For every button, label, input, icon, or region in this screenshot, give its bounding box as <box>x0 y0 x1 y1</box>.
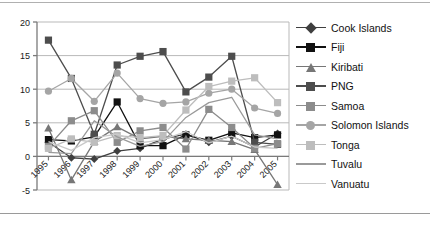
legend-item-label: PNG <box>326 81 354 92</box>
data-point-png <box>45 37 52 44</box>
square-marker <box>306 141 315 150</box>
data-point-png <box>136 53 143 60</box>
data-point-samoa <box>182 145 189 152</box>
data-point-png <box>114 61 121 68</box>
data-point-fiji <box>274 131 281 138</box>
chart-legend: Cook IslandsFijiKiribatiPNGSamoaSolomon … <box>296 18 430 194</box>
legend-key <box>296 79 326 93</box>
data-point-solomon-islands <box>182 98 189 105</box>
x-axis-tick-label: 1999 <box>120 159 141 180</box>
legend-item[interactable]: Samoa <box>296 96 430 116</box>
legend-item[interactable]: Vanuatu <box>296 174 430 194</box>
legend-item-label: Vanuatu <box>326 179 369 190</box>
data-point-solomon-islands <box>205 90 212 97</box>
data-point-png <box>159 48 166 55</box>
diamond-marker <box>305 22 316 33</box>
data-point-fiji <box>159 142 166 149</box>
data-point-tonga <box>91 139 98 146</box>
legend-key <box>296 118 326 132</box>
data-point-samoa <box>136 127 143 134</box>
data-point-solomon-islands <box>274 110 281 117</box>
data-point-solomon-islands <box>45 88 52 95</box>
data-point-png <box>182 88 189 95</box>
data-point-samoa <box>68 117 75 124</box>
legend-item[interactable]: Cook Islands <box>296 18 430 38</box>
data-point-kiribati <box>67 176 75 184</box>
x-axis-tick-label: 2000 <box>143 159 164 180</box>
data-point-png <box>228 53 235 60</box>
data-point-samoa <box>205 106 212 113</box>
data-point-solomon-islands <box>228 86 235 93</box>
data-point-tonga <box>45 145 52 152</box>
legend-key <box>296 177 326 191</box>
data-point-solomon-islands <box>114 69 121 76</box>
data-point-samoa <box>159 124 166 131</box>
legend-key <box>296 157 326 171</box>
data-point-kiribati <box>44 124 52 132</box>
y-axis-tick-label: 5 <box>25 118 30 128</box>
x-axis-tick-label: 1998 <box>97 159 118 180</box>
y-axis-tick-label: 10 <box>20 85 30 95</box>
data-point-solomon-islands <box>159 100 166 107</box>
data-point-solomon-islands <box>136 95 143 102</box>
square-marker <box>306 82 315 91</box>
legend-line-swatch <box>296 183 326 185</box>
legend-item[interactable]: Kiribati <box>296 57 430 77</box>
data-point-samoa <box>228 124 235 131</box>
legend-item-label: Cook Islands <box>326 23 392 34</box>
x-axis-tick-label: 1995 <box>29 159 50 180</box>
x-axis-tick-label: 2003 <box>212 159 233 180</box>
x-axis-tick-label: 2002 <box>189 159 210 180</box>
legend-item-label: Tuvalu <box>326 159 362 170</box>
legend-key <box>296 99 326 113</box>
legend-item[interactable]: Tuvalu <box>296 155 430 175</box>
legend-item-label: Tonga <box>326 140 360 151</box>
y-axis-tick-label: 0 <box>25 152 30 162</box>
legend-item-label: Kiribati <box>326 62 363 73</box>
legend-key <box>296 40 326 54</box>
data-point-samoa <box>114 139 121 146</box>
data-point-solomon-islands <box>251 104 258 111</box>
x-axis-tick-label: 2005 <box>258 159 279 180</box>
data-point-tonga <box>68 135 75 142</box>
data-point-png <box>205 74 212 81</box>
y-axis-tick-label: 15 <box>20 51 30 61</box>
legend-key <box>296 60 326 74</box>
x-axis-tick-label: 2004 <box>235 159 256 180</box>
x-axis-tick-label: 2001 <box>166 159 187 180</box>
data-point-tonga <box>205 83 212 90</box>
circle-marker <box>306 121 315 130</box>
legend-item[interactable]: Fiji <box>296 38 430 58</box>
legend-item-label: Fiji <box>326 42 344 53</box>
data-point-solomon-islands <box>91 98 98 105</box>
square-marker <box>306 43 315 52</box>
legend-key <box>296 138 326 152</box>
data-point-cook-islands <box>113 147 121 155</box>
data-point-fiji <box>114 98 121 105</box>
data-point-tonga <box>251 74 258 81</box>
data-point-tonga <box>136 134 143 141</box>
data-point-samoa <box>91 107 98 114</box>
legend-line-swatch <box>296 163 326 165</box>
legend-item[interactable]: PNG <box>296 77 430 97</box>
triangle-marker <box>306 63 316 72</box>
chart-figure: -505101520199519961997199819992000200120… <box>0 0 430 228</box>
data-point-cook-islands <box>67 154 75 162</box>
legend-item[interactable]: Tonga <box>296 135 430 155</box>
legend-item-label: Solomon Islands <box>326 120 409 131</box>
data-point-kiribati <box>113 123 121 131</box>
legend-key <box>296 21 326 35</box>
legend-item[interactable]: Solomon Islands <box>296 116 430 136</box>
y-axis-tick-label: 20 <box>20 18 30 28</box>
data-point-tonga <box>274 99 281 106</box>
data-point-kiribati <box>273 180 281 188</box>
square-marker <box>306 102 315 111</box>
y-axis-tick-label: -5 <box>22 186 30 196</box>
data-point-samoa <box>274 140 281 147</box>
data-point-tonga <box>228 78 235 85</box>
legend-item-label: Samoa <box>326 101 364 112</box>
data-point-solomon-islands <box>68 75 75 82</box>
data-point-tonga <box>182 106 189 113</box>
